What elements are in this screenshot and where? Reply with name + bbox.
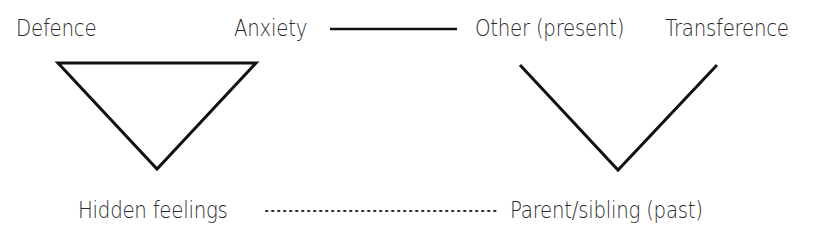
person-triangle-v bbox=[520, 65, 717, 170]
conflict-triangle bbox=[58, 63, 256, 169]
diagram-canvas bbox=[0, 0, 821, 234]
